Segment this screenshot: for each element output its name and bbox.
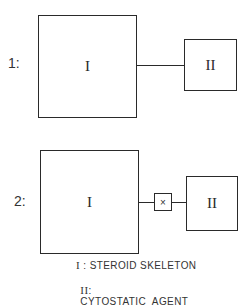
- legend-text: CYTOSTATIC AGENT: [80, 296, 188, 307]
- connector-line-1: [137, 65, 185, 66]
- cytostatic-agent-box-1: II: [184, 39, 237, 91]
- steroid-skeleton-symbol: I: [87, 194, 92, 211]
- legend-symbol: I: [76, 259, 80, 271]
- legend-text: STEROID SKELETON: [90, 260, 197, 271]
- cytostatic-agent-box-2: II: [186, 176, 238, 231]
- legend-separator: :: [83, 260, 86, 271]
- legend-item-2: II: CYTOSTATIC AGENT: [74, 273, 188, 307]
- variant-2-label: 2:: [14, 193, 26, 209]
- steroid-skeleton-box-2: I: [40, 150, 139, 254]
- steroid-skeleton-box-1: I: [38, 15, 137, 118]
- linker-box: ×: [154, 193, 172, 211]
- connector-line-2b: [172, 202, 187, 203]
- connector-line-2a: [139, 202, 155, 203]
- legend-item-1: I : STEROID SKELETON: [76, 259, 196, 271]
- legend-separator: :: [89, 285, 92, 296]
- legend-symbol: II: [80, 284, 88, 296]
- cytostatic-agent-symbol: II: [206, 57, 216, 74]
- steroid-skeleton-symbol: I: [85, 58, 90, 75]
- variant-1-label: 1:: [8, 55, 20, 71]
- cytostatic-agent-symbol: II: [207, 195, 217, 212]
- linker-x-icon: ×: [160, 197, 166, 208]
